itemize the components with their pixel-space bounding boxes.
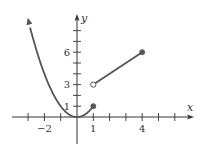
open-endpoint	[91, 82, 96, 87]
y-tick-label: 6	[64, 47, 70, 58]
y-axis-label: y	[80, 12, 88, 25]
piecewise-function-graph: x y −214136	[0, 0, 204, 148]
x-axis-label: x	[187, 101, 194, 114]
y-tick-label: 3	[64, 79, 70, 90]
line-segment	[93, 52, 142, 84]
curve-arrow-icon	[26, 18, 32, 26]
y-tick-label: 1	[64, 101, 70, 112]
axis-ticks	[28, 31, 175, 121]
closed-endpoint	[140, 50, 145, 55]
parabola-curve	[30, 27, 93, 117]
closed-endpoint	[91, 104, 96, 109]
x-tick-label: 1	[90, 123, 96, 134]
plot-series	[26, 18, 142, 117]
x-tick-label: 4	[139, 123, 145, 134]
endpoint-markers	[91, 50, 145, 109]
x-tick-label: −2	[37, 123, 52, 134]
